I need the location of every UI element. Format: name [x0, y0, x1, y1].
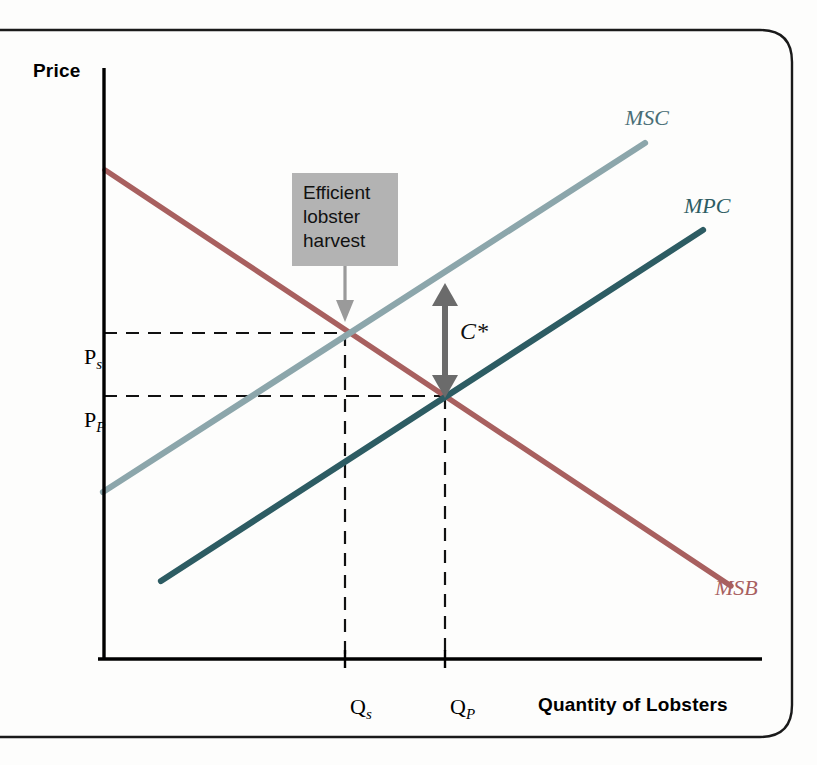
y-tick-ps-base: P	[84, 344, 96, 369]
external-cost-label: C*	[460, 318, 488, 345]
curve-label-msc: MSC	[625, 105, 669, 131]
x-tick-label-qp: QP	[428, 668, 475, 749]
x-axis-title: Quantity of Lobsters	[538, 694, 728, 716]
curve-label-mpc: MPC	[684, 193, 730, 219]
callout-line-3: harvest	[303, 229, 388, 253]
y-axis-title: Price	[33, 60, 80, 82]
plot-canvas	[0, 0, 817, 765]
x-tick-qp-sub: P	[466, 706, 475, 722]
curve-label-msb: MSB	[715, 575, 758, 601]
callout-arrow	[336, 266, 354, 322]
efficient-harvest-callout: Efficient lobster harvest	[292, 173, 398, 266]
y-tick-pp-sub: P	[96, 419, 105, 435]
curve-msb	[105, 170, 731, 586]
x-tick-qs-base: Q	[350, 694, 366, 719]
y-tick-label-pp: PP	[62, 381, 105, 462]
x-tick-qs-sub: s	[366, 706, 372, 722]
external-cost-arrow	[432, 283, 458, 398]
figure-panel: Price Quantity of Lobsters Ps PP Qs QP M…	[0, 0, 817, 765]
callout-line-2: lobster	[303, 205, 388, 229]
y-tick-ps-sub: s	[96, 356, 102, 372]
callout-line-1: Efficient	[303, 181, 388, 205]
x-tick-label-qs: Qs	[328, 668, 372, 749]
x-tick-qp-base: Q	[450, 694, 466, 719]
y-tick-pp-base: P	[84, 407, 96, 432]
